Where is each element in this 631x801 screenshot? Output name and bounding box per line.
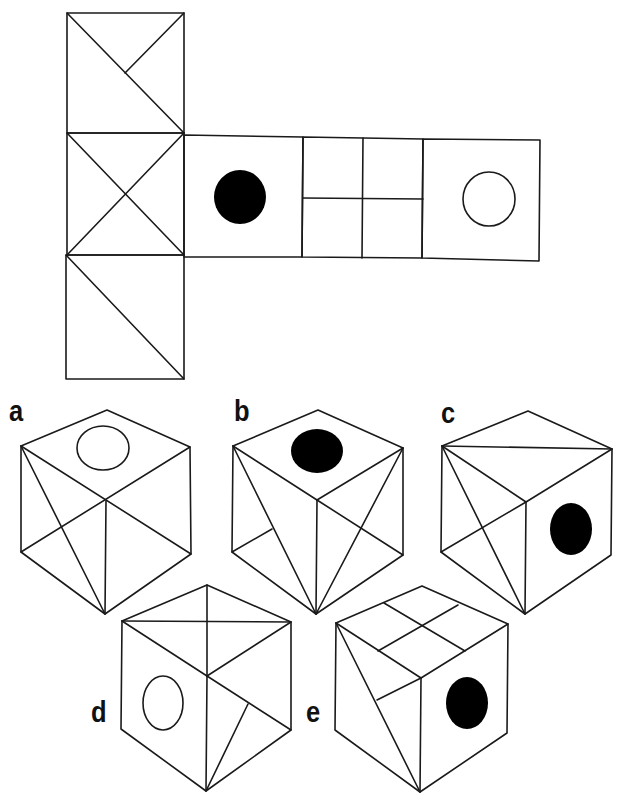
option-label-b: b: [234, 396, 250, 426]
black-circle-icon: [550, 503, 592, 555]
net-face-column-top: [67, 13, 184, 133]
white-circle-icon: [143, 676, 183, 730]
black-circle-icon: [214, 170, 266, 224]
cube-option-c[interactable]: [441, 411, 612, 614]
white-circle-icon: [463, 172, 515, 226]
cube-option-d[interactable]: [121, 585, 291, 791]
black-circle-icon: [446, 677, 488, 729]
black-circle-icon: [291, 429, 343, 473]
cube-option-b[interactable]: [232, 410, 403, 614]
option-label-c: c: [441, 398, 455, 428]
option-label-a: a: [9, 396, 23, 426]
option-label-d: d: [91, 697, 107, 727]
cube-net: [66, 13, 540, 379]
net-face-column-middle: [67, 133, 184, 255]
net-face-grid: [302, 137, 423, 258]
net-face-column-bottom: [66, 255, 184, 379]
net-face-white-circle: [422, 139, 540, 261]
cube-option-e[interactable]: [335, 586, 508, 792]
cube-option-a[interactable]: [21, 410, 191, 614]
net-face-black-circle: [184, 135, 303, 257]
option-label-e: e: [306, 697, 320, 727]
white-circle-icon: [77, 426, 129, 470]
puzzle-canvas: [0, 0, 631, 801]
